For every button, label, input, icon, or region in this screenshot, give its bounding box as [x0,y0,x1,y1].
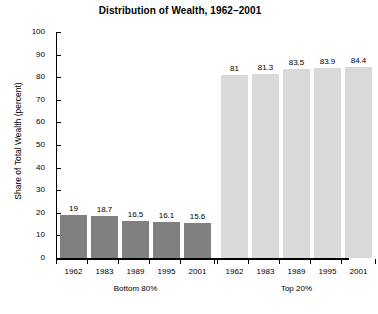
y-axis-tick [57,258,61,259]
x-axis-category-label: 2001 [339,267,378,276]
y-axis-tick-label: 80 [5,73,45,81]
y-axis-tick-label: 100 [5,28,45,36]
y-axis-tick [57,145,61,146]
y-axis-tick-label: 50 [5,141,45,149]
bar [60,215,87,258]
x-axis-tick [180,259,181,264]
y-axis-tick-label: 20 [5,209,45,217]
y-axis-tick [57,77,61,78]
x-axis-tick [214,259,215,264]
y-axis-tick [57,55,61,56]
bar [184,223,211,258]
y-axis-tick [57,100,61,101]
bar [221,75,248,258]
x-axis-tick [217,259,218,264]
y-axis-tick [57,32,61,33]
y-axis-tick [57,190,61,191]
x-axis-tick [56,259,57,264]
bar [314,68,341,258]
group-label: Top 20% [221,284,372,293]
plot-area: 1009080706050403020100 1918.716.516.115.… [56,32,352,258]
group-label: Bottom 80% [60,284,211,293]
y-axis-tick-label: 60 [5,118,45,126]
bar [91,216,118,258]
bar [252,74,279,258]
bar [122,221,149,258]
x-axis-tick [341,259,342,264]
x-axis-tick [87,259,88,264]
y-axis-tick-label: 10 [5,231,45,239]
y-axis-tick-label: 30 [5,186,45,194]
x-axis-tick [279,259,280,264]
x-axis-tick [248,259,249,264]
bar [345,67,372,258]
y-axis-tick [57,168,61,169]
bar [283,69,310,258]
x-axis-category-label: 2001 [178,267,217,276]
x-axis-tick [310,259,311,264]
y-axis-tick-label: 40 [5,164,45,172]
x-axis-tick [149,259,150,264]
bar-value-label: 84.4 [339,56,378,65]
x-axis-line [56,258,349,260]
x-axis-tick [375,259,376,264]
y-axis-tick [57,122,61,123]
y-axis-tick-label: 90 [5,51,45,59]
y-axis-tick-label: 0 [5,254,45,262]
chart-title: Distribution of Wealth, 1962–2001 [0,5,360,16]
bar [153,222,180,258]
bar-value-label: 15.6 [178,212,217,221]
x-axis-tick [118,259,119,264]
y-axis-tick-label: 70 [5,96,45,104]
